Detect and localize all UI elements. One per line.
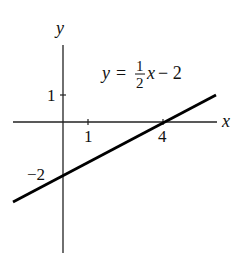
equation-label: y = 1 2 x − 2 <box>100 58 182 91</box>
equation-rest: − 2 <box>158 63 182 83</box>
equation-lhs: y <box>100 63 110 83</box>
y-tick-label-1: 1 <box>47 86 56 105</box>
graph-figure: y x 1 4 1 −2 y = 1 2 x − 2 <box>0 0 236 257</box>
equation-var: x <box>146 63 155 83</box>
equation-denominator: 2 <box>136 75 144 91</box>
x-tick-label-4: 4 <box>158 127 167 146</box>
equation-numerator: 1 <box>136 58 144 74</box>
plot-line <box>13 95 216 202</box>
equation-equals: = <box>116 63 126 83</box>
y-intercept-label: −2 <box>27 165 45 184</box>
y-axis-label: y <box>54 18 64 38</box>
graph-svg: y x 1 4 1 −2 y = 1 2 x − 2 <box>0 0 236 257</box>
x-tick-label-1: 1 <box>84 127 93 146</box>
x-axis-label: x <box>221 111 230 131</box>
